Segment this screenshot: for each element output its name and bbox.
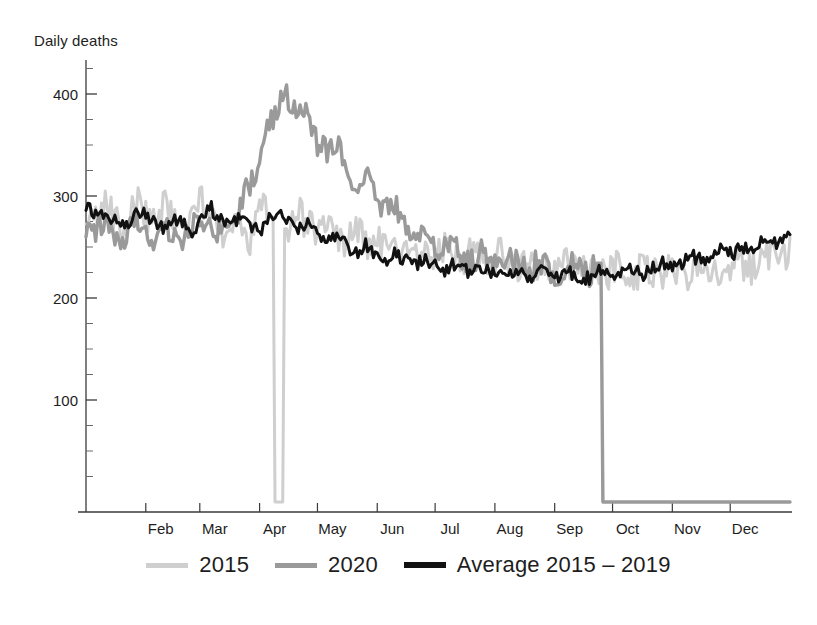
line-swatch-average (404, 562, 446, 568)
legend-label: 2020 (328, 552, 378, 578)
chart-series-group (86, 85, 790, 502)
chart-legend: 20152020Average 2015 – 2019 (0, 552, 817, 578)
x-axis-tick-label: Mar (202, 520, 228, 537)
legend-label: Average 2015 – 2019 (457, 552, 671, 578)
chart-plot-area: 100200300400 FebMarAprMayJunJulAugSepOct… (0, 0, 817, 625)
legend-entry[interactable]: 2020 (275, 552, 378, 578)
x-axis-tick-label: Sep (556, 520, 583, 537)
y-axis-tick-label: 300 (53, 188, 78, 205)
chart-figure: Daily deaths 100200300400 FebMarAprMayJu… (0, 0, 817, 625)
x-axis-tick-label: Jul (441, 520, 460, 537)
x-axis-tick-label: Feb (148, 520, 174, 537)
x-axis-tick-label: May (318, 520, 347, 537)
y-axis-tick-label: 200 (53, 290, 78, 307)
chart-axes (78, 60, 792, 512)
x-axis-ticks: FebMarAprMayJunJulAugSepOctNovDec (146, 503, 759, 537)
x-axis-tick-label: Oct (616, 520, 640, 537)
x-axis-tick-label: Jun (380, 520, 404, 537)
chart-line-2020 (86, 85, 790, 502)
legend-label: 2015 (199, 552, 249, 578)
legend-entry[interactable]: Average 2015 – 2019 (404, 552, 671, 578)
x-axis-tick-label: Apr (263, 520, 286, 537)
y-axis-ticks: 100200300400 (53, 69, 97, 477)
x-axis-tick-label: Nov (674, 520, 701, 537)
line-swatch-2015 (146, 563, 188, 568)
x-axis-tick-label: Aug (497, 520, 524, 537)
y-axis-tick-label: 400 (53, 86, 78, 103)
legend-entry[interactable]: 2015 (146, 552, 249, 578)
line-swatch-2020 (275, 563, 317, 568)
y-axis-tick-label: 100 (53, 392, 78, 409)
x-axis-tick-label: Dec (732, 520, 759, 537)
